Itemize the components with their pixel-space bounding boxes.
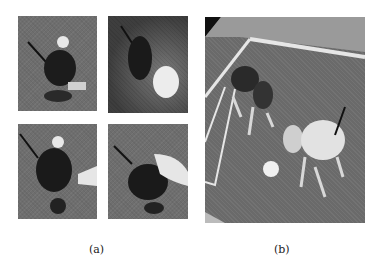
photo-robot-soccer-field: [205, 17, 365, 223]
robot-ball-icon: [108, 16, 188, 113]
photo-robot-with-hand-petting: [108, 124, 188, 219]
robot-petting-icon: [108, 124, 188, 219]
panel-a-label: (a): [89, 243, 104, 256]
panel-b-label: (b): [274, 243, 290, 256]
photo-robot-with-ball: [108, 16, 188, 113]
robot-icon: [18, 16, 97, 111]
photo-robot-with-hand-side: [18, 124, 97, 219]
soccer-field-icon: [205, 17, 365, 223]
robot-hand-icon: [18, 124, 97, 219]
photo-robot-on-grass: [18, 16, 97, 111]
